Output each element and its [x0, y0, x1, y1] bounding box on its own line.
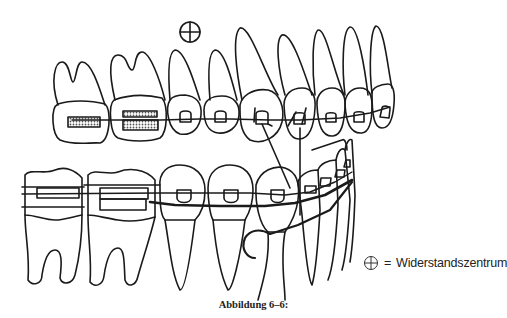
lower-arch: [22, 139, 355, 300]
upper-arch: [53, 26, 394, 215]
resistance-center-icon: [180, 22, 200, 42]
legend: = Widerstandszentrum: [363, 255, 507, 271]
resistance-center-icon: [363, 255, 379, 271]
figure-caption: Abbildung 6–6:: [0, 299, 507, 310]
legend-label: Widerstandszentrum: [396, 256, 507, 270]
legend-equals: =: [384, 256, 391, 270]
